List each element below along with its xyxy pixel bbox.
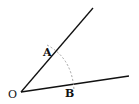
ray-lower <box>21 76 129 92</box>
ray-upper <box>21 8 93 92</box>
angle-diagram: O A B <box>0 0 139 104</box>
label-A: A <box>42 46 52 59</box>
label-B: B <box>65 87 74 100</box>
label-O: O <box>8 88 17 101</box>
